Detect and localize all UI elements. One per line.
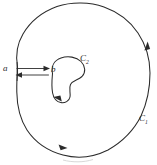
- label-c2-subscript: 2: [86, 59, 89, 65]
- label-inner-contour-c2: C2: [80, 54, 89, 65]
- outer-contour-arrow-bottom-icon: [59, 144, 68, 150]
- outer-contour-path: [17, 3, 150, 157]
- label-c1-subscript: 1: [145, 119, 148, 125]
- crosscut-arrow-right-icon: [44, 66, 51, 71]
- contour-diagram: a b C2 C1: [0, 0, 157, 165]
- diagram-canvas: [0, 0, 157, 165]
- crosscut-arrow-left-icon: [16, 72, 23, 77]
- label-outer-contour-c1: C1: [139, 114, 148, 125]
- label-point-a: a: [3, 64, 8, 73]
- label-point-b: b: [51, 65, 56, 74]
- scan-artifact: [63, 160, 93, 162]
